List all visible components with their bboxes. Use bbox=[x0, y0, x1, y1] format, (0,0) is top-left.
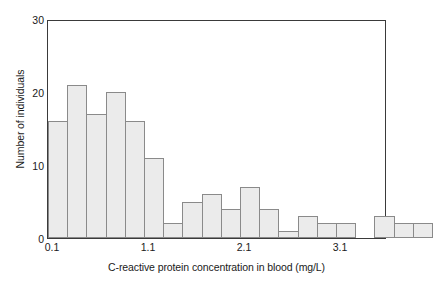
histogram-bar bbox=[221, 209, 241, 238]
histogram-bar bbox=[374, 216, 394, 238]
y-tick-label: 10 bbox=[24, 161, 44, 171]
histogram-bar bbox=[48, 121, 68, 238]
histogram-bar bbox=[336, 223, 356, 238]
y-tick-label: 30 bbox=[24, 15, 44, 25]
histogram-bar bbox=[259, 209, 279, 238]
x-tick-label: 2.1 bbox=[224, 241, 264, 253]
histogram-bar bbox=[240, 187, 260, 238]
x-tick-label: 3.1 bbox=[320, 241, 360, 253]
histogram-bar bbox=[86, 114, 106, 238]
x-tick-label: 0.1 bbox=[32, 241, 72, 253]
histogram-bar bbox=[182, 202, 202, 239]
histogram-bar bbox=[144, 158, 164, 238]
histogram-bar bbox=[67, 85, 87, 238]
histogram-bar bbox=[317, 223, 337, 238]
bars-layer bbox=[48, 21, 385, 238]
histogram-bar bbox=[106, 92, 126, 238]
histogram-bar bbox=[125, 121, 145, 238]
histogram-bar bbox=[163, 223, 183, 238]
histogram-bar bbox=[278, 231, 298, 238]
histogram-bar bbox=[202, 194, 222, 238]
histogram-bar bbox=[298, 216, 318, 238]
x-axis-title: C-reactive protein concentration in bloo… bbox=[47, 261, 386, 273]
histogram-bar bbox=[413, 223, 433, 238]
x-tick-label: 1.1 bbox=[128, 241, 168, 253]
plot-area bbox=[47, 20, 386, 239]
histogram-bar bbox=[394, 223, 414, 238]
x-axis-ticks: 0.11.12.13.1 bbox=[0, 241, 403, 257]
y-tick-label: 20 bbox=[24, 88, 44, 98]
